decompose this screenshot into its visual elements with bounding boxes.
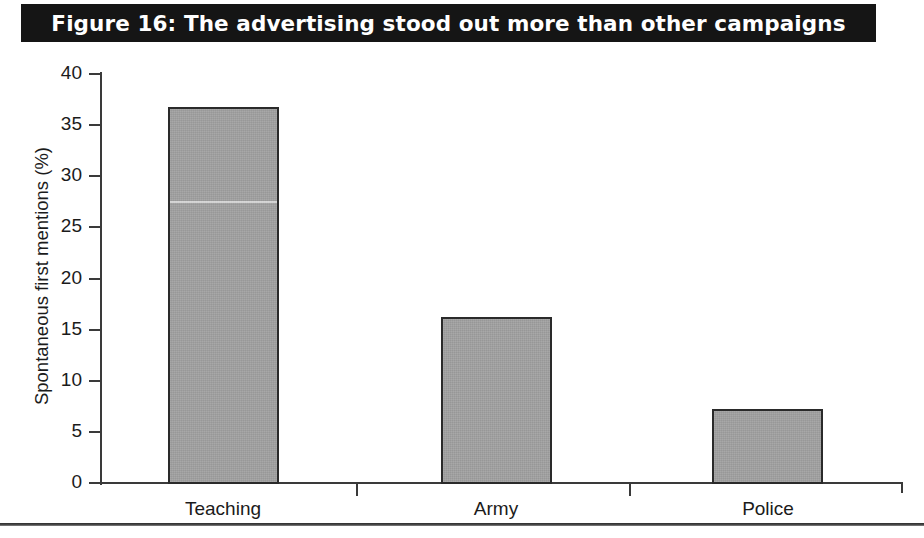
y-tick-10: [89, 380, 100, 382]
x-axis-end-tick: [901, 482, 903, 493]
bar-texture: [714, 411, 821, 482]
y-tick-label-5: 5: [36, 420, 82, 442]
y-axis-line: [100, 72, 102, 485]
page-title: Figure 16: The advertising stood out mor…: [51, 11, 845, 36]
y-tick-label-40: 40: [36, 62, 82, 84]
y-tick-label-10: 10: [36, 369, 82, 391]
figure-title-bar: Figure 16: The advertising stood out mor…: [22, 5, 875, 41]
bar-police[interactable]: [712, 409, 823, 484]
bar-texture: [443, 319, 550, 482]
y-tick-label-15: 15: [36, 318, 82, 340]
y-tick-30: [89, 175, 100, 177]
scan-artifact-line: [170, 201, 277, 203]
y-tick-label-0: 0: [36, 471, 82, 493]
bar-army[interactable]: [441, 317, 552, 484]
x-axis-label-army: Army: [386, 498, 606, 520]
y-tick-label-30: 30: [36, 164, 82, 186]
x-axis-label-police: Police: [658, 498, 878, 520]
footer-ghost-text: [40, 528, 740, 538]
footer-divider: [0, 523, 924, 526]
bar-texture: [170, 109, 277, 482]
x-axis-label-teaching: Teaching: [113, 498, 333, 520]
y-tick-25: [89, 226, 100, 228]
y-tick-0: [89, 482, 100, 484]
y-tick-35: [89, 124, 100, 126]
y-tick-label-20: 20: [36, 267, 82, 289]
figure-container: Figure 16: The advertising stood out mor…: [0, 0, 924, 538]
y-tick-5: [89, 431, 100, 433]
x-tick-divider-2: [629, 484, 631, 496]
y-tick-15: [89, 329, 100, 331]
bar-teaching[interactable]: [168, 107, 279, 484]
y-tick-label-35: 35: [36, 113, 82, 135]
y-tick-label-25: 25: [36, 215, 82, 237]
x-tick-divider-1: [356, 484, 358, 496]
y-tick-40: [89, 73, 100, 75]
y-axis-label-container: Spontaneous first mentions (%): [0, 0, 40, 538]
y-tick-20: [89, 278, 100, 280]
